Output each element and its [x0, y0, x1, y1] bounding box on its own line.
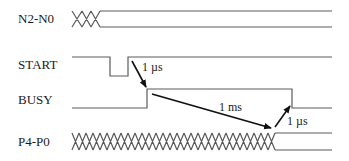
waveform-p4p0 — [72, 133, 332, 150]
signal-label-n2n0: N2-N0 — [18, 11, 54, 26]
annotation-t3: 1 µs — [287, 114, 308, 128]
signal-label-p4p0: P4-P0 — [18, 134, 50, 149]
signal-label-busy: BUSY — [18, 92, 53, 107]
waveform-start — [72, 57, 332, 76]
waveform-busy — [72, 89, 332, 108]
timing-diagram: N2-N0 START BUSY P4-P0 1 µs 1 ms 1 µs — [0, 0, 349, 161]
annotation-t1: 1 µs — [142, 60, 163, 74]
timing-arrow-busy-to-data — [152, 94, 271, 128]
signal-label-start: START — [18, 57, 57, 72]
annotation-t2: 1 ms — [219, 100, 242, 114]
waveform-n2n0 — [72, 11, 332, 27]
